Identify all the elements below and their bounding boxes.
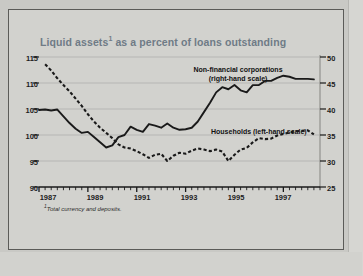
- figure-container: Liquid assets1 as a percent of loans out…: [0, 0, 362, 276]
- plot-area: [0, 0, 362, 276]
